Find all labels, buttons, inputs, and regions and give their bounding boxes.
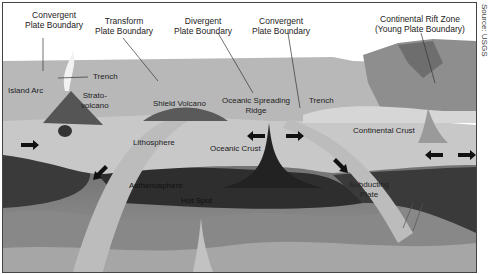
- label-line: Divergent: [174, 16, 232, 26]
- label-trench-left: Trench: [93, 72, 118, 82]
- label-line: Plate Boundary: [252, 26, 310, 36]
- label-line: Convergent: [25, 10, 83, 20]
- label-hot-spot: Hot Spot: [181, 196, 212, 206]
- label-island-arc: Island Arc: [8, 86, 43, 96]
- label-trench-right: Trench: [309, 96, 334, 106]
- label-continental-crust: Continental Crust: [353, 126, 415, 136]
- diagram-frame: Convergent Plate Boundary Transform Plat…: [2, 2, 477, 273]
- label-lithosphere: Lithosphere: [133, 138, 175, 148]
- label-asthenosphere: Asthenosphere: [129, 181, 183, 191]
- label-line: Strato-: [81, 91, 109, 101]
- label-stratovolcano: Strato- volcano: [81, 91, 109, 111]
- label-line: Transform: [95, 16, 153, 26]
- tectonics-illustration: [3, 3, 476, 272]
- label-line: Subducting: [349, 180, 389, 190]
- label-line: Plate Boundary: [174, 26, 232, 36]
- label-line: (Young Plate Boundary): [375, 24, 465, 34]
- label-line: Continental Rift Zone: [375, 14, 465, 24]
- label-line: Ridge: [222, 106, 290, 116]
- label-convergent-boundary-left: Convergent Plate Boundary: [25, 10, 83, 30]
- label-oceanic-crust: Oceanic Crust: [210, 144, 261, 154]
- label-line: Plate: [349, 190, 389, 200]
- source-credit: Source: USGS: [480, 4, 489, 56]
- label-shield-volcano: Shield Volcano: [153, 99, 206, 109]
- label-line: Plate Boundary: [25, 20, 83, 30]
- label-divergent-boundary: Divergent Plate Boundary: [174, 16, 232, 36]
- label-transform-boundary: Transform Plate Boundary: [95, 16, 153, 36]
- label-line: Convergent: [252, 16, 310, 26]
- label-convergent-boundary-right: Convergent Plate Boundary: [252, 16, 310, 36]
- label-subducting-plate: Subducting Plate: [349, 180, 389, 200]
- label-line: Plate Boundary: [95, 26, 153, 36]
- label-line: Oceanic Spreading: [222, 96, 290, 106]
- label-line: volcano: [81, 101, 109, 111]
- label-oceanic-spreading-ridge: Oceanic Spreading Ridge: [222, 96, 290, 116]
- label-continental-rift-zone: Continental Rift Zone (Young Plate Bound…: [375, 14, 465, 34]
